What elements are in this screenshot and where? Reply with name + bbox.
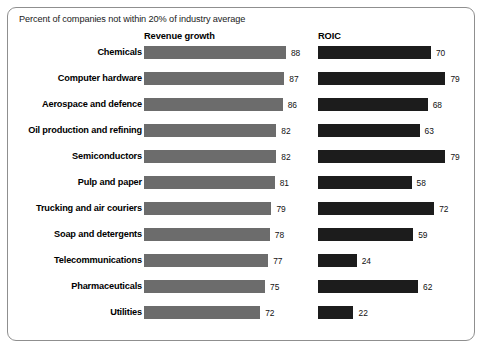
revenue-bar-value: 82 — [281, 152, 290, 162]
revenue-bar — [144, 72, 284, 85]
category-label: Oil production and refining — [0, 125, 142, 135]
revenue-bar-value: 87 — [289, 74, 298, 84]
chart-row: Trucking and air couriers7972 — [8, 200, 476, 226]
roic-bar — [318, 176, 412, 189]
chart-frame: Percent of companies not within 20% of i… — [7, 7, 475, 341]
chart-row: Soap and detergents7859 — [8, 226, 476, 252]
roic-bar — [318, 280, 418, 293]
column-header-revenue-growth: Revenue growth — [144, 31, 215, 41]
roic-bar — [318, 46, 431, 59]
chart-row: Oil production and refining8263 — [8, 122, 476, 148]
chart-row: Chemicals8870 — [8, 44, 476, 70]
roic-bar-value: 24 — [362, 256, 371, 266]
revenue-bar — [144, 176, 275, 189]
revenue-bar-value: 88 — [291, 48, 300, 58]
roic-bar — [318, 124, 420, 137]
revenue-bar — [144, 280, 265, 293]
chart-row: Computer hardware8779 — [8, 70, 476, 96]
revenue-bar-value: 75 — [270, 282, 279, 292]
roic-bar — [318, 98, 428, 111]
roic-bar-value: 68 — [433, 100, 442, 110]
chart-row: Pharmaceuticals7562 — [8, 278, 476, 304]
revenue-bar-value: 77 — [273, 256, 282, 266]
roic-bar — [318, 150, 445, 163]
revenue-bar — [144, 202, 271, 215]
chart-caption: Percent of companies not within 20% of i… — [19, 14, 245, 24]
revenue-bar — [144, 124, 276, 137]
category-label: Pulp and paper — [0, 177, 142, 187]
category-label: Aerospace and defence — [0, 99, 142, 109]
revenue-bar-value: 81 — [280, 178, 289, 188]
category-label: Utilities — [0, 307, 142, 317]
revenue-bar — [144, 98, 283, 111]
revenue-bar-value: 82 — [281, 126, 290, 136]
revenue-bar — [144, 254, 268, 267]
chart-rows: Chemicals8870Computer hardware8779Aerosp… — [8, 44, 476, 330]
category-label: Semiconductors — [0, 151, 142, 161]
roic-bar — [318, 228, 413, 241]
roic-bar-value: 70 — [436, 48, 445, 58]
roic-bar-value: 72 — [439, 204, 448, 214]
roic-bar-value: 62 — [423, 282, 432, 292]
revenue-bar-value: 78 — [275, 230, 284, 240]
column-header-roic: ROIC — [318, 31, 341, 41]
roic-bar — [318, 72, 445, 85]
category-label: Pharmaceuticals — [0, 281, 142, 291]
roic-bar-value: 58 — [417, 178, 426, 188]
revenue-bar — [144, 150, 276, 163]
chart-row: Aerospace and defence8668 — [8, 96, 476, 122]
roic-bar-value: 79 — [450, 74, 459, 84]
roic-bar-value: 22 — [358, 308, 367, 318]
roic-bar-value: 63 — [425, 126, 434, 136]
chart-row: Semiconductors8279 — [8, 148, 476, 174]
revenue-bar — [144, 306, 260, 319]
roic-bar-value: 59 — [418, 230, 427, 240]
category-label: Telecommunications — [0, 255, 142, 265]
revenue-bar — [144, 46, 286, 59]
revenue-bar-value: 72 — [265, 308, 274, 318]
chart-row: Pulp and paper8158 — [8, 174, 476, 200]
revenue-bar-value: 86 — [288, 100, 297, 110]
category-label: Soap and detergents — [0, 229, 142, 239]
roic-bar — [318, 254, 357, 267]
revenue-bar-value: 79 — [276, 204, 285, 214]
chart-row: Utilities7222 — [8, 304, 476, 330]
roic-bar-value: 79 — [450, 152, 459, 162]
revenue-bar — [144, 228, 270, 241]
roic-bar — [318, 306, 353, 319]
chart-row: Telecommunications7724 — [8, 252, 476, 278]
category-label: Chemicals — [0, 47, 142, 57]
roic-bar — [318, 202, 434, 215]
category-label: Trucking and air couriers — [0, 203, 142, 213]
category-label: Computer hardware — [0, 73, 142, 83]
